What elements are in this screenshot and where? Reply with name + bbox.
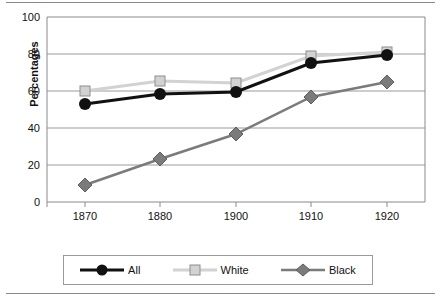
circle-marker-icon: [80, 263, 124, 277]
data-point-all-1920: [381, 49, 393, 61]
chart-figure: Percentages 100 80 60 40 20 0 1870 1880 …: [0, 0, 441, 298]
legend-label-all: All: [128, 264, 140, 276]
data-point-black-1920: [380, 75, 394, 89]
legend-item-white: White: [173, 263, 249, 277]
data-point-all-1880: [154, 88, 166, 100]
data-point-white-1880: [155, 76, 165, 86]
x-axis-ticks: [47, 202, 387, 207]
legend-label-white: White: [221, 264, 249, 276]
data-point-white-1870: [80, 86, 90, 96]
data-point-black-1910: [304, 90, 318, 104]
legend-item-black: Black: [281, 263, 356, 277]
square-marker-icon: [173, 263, 217, 277]
data-point-black-1900: [229, 127, 243, 141]
data-point-all-1870: [79, 98, 91, 110]
chart-legend: All White Black: [63, 255, 373, 285]
legend-label-black: Black: [329, 264, 356, 276]
data-point-all-1900: [230, 86, 242, 98]
data-point-black-1880: [153, 152, 167, 166]
legend-items: All White Black: [64, 256, 372, 284]
chart-plot-area: [0, 0, 441, 298]
data-point-all-1910: [305, 57, 317, 69]
data-point-black-1870: [78, 178, 92, 192]
plot-border: [47, 17, 425, 202]
legend-item-all: All: [80, 263, 140, 277]
diamond-marker-icon: [281, 263, 325, 277]
